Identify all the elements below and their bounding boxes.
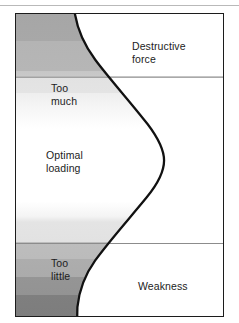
plot-box: Destructive force Too much Optimal loadi…: [15, 13, 224, 317]
figure-root: Destructive force Too much Optimal loadi…: [0, 0, 239, 323]
top-rule-divider: [0, 5, 239, 6]
loading-curve-chart: [16, 14, 223, 316]
shaded-left-region: [16, 14, 164, 316]
